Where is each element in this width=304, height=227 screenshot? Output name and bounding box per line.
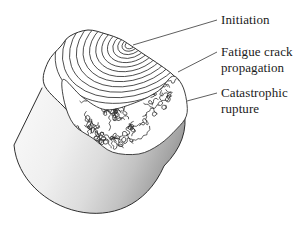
label-fatigue-crack-propagation: Fatigue crack propagation [221, 44, 293, 76]
fatigue-failure-diagram: Initiation Fatigue crack propagation Cat… [0, 0, 304, 227]
leader-initiation [133, 20, 217, 45]
leader-rupture [187, 93, 217, 101]
leader-propagation [178, 52, 217, 72]
label-initiation-text: Initiation [221, 12, 270, 28]
label-propagation-line2: propagation [221, 60, 293, 76]
label-propagation-line1: Fatigue crack [221, 44, 293, 60]
label-initiation: Initiation [221, 12, 270, 28]
label-catastrophic-rupture: Catastrophic rupture [221, 85, 288, 117]
label-rupture-line1: Catastrophic [221, 85, 288, 101]
label-rupture-line2: rupture [221, 101, 288, 117]
